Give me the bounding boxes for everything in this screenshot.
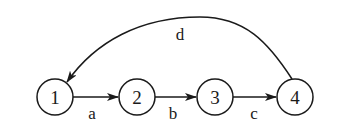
node-2: 2 xyxy=(119,79,155,115)
edge-d: d xyxy=(67,17,292,82)
node-1: 1 xyxy=(37,79,73,115)
node-label-1: 1 xyxy=(50,87,60,108)
edge-label-d: d xyxy=(176,25,185,44)
edge-label-c: c xyxy=(250,104,258,123)
edge-a: a xyxy=(73,97,118,123)
graph-diagram: a b c d 1 2 3 4 xyxy=(0,0,338,137)
node-label-3: 3 xyxy=(210,87,220,108)
node-4: 4 xyxy=(277,79,313,115)
node-label-2: 2 xyxy=(132,87,142,108)
edge-b: b xyxy=(155,97,196,123)
node-3: 3 xyxy=(197,79,233,115)
edge-label-a: a xyxy=(88,104,96,123)
node-label-4: 4 xyxy=(290,87,300,108)
edge-label-b: b xyxy=(169,104,178,123)
edge-c: c xyxy=(233,97,276,123)
